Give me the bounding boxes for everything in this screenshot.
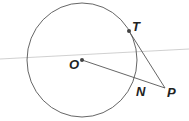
- label-p: P: [167, 85, 176, 100]
- point-o: [80, 58, 84, 62]
- segment-tp: [129, 31, 165, 88]
- segment-op: [82, 60, 165, 88]
- label-o: O: [69, 57, 79, 72]
- point-t: [127, 29, 131, 33]
- label-n: N: [136, 84, 146, 99]
- background-guide-line: [0, 49, 189, 59]
- geometry-diagram: O T N P: [0, 0, 189, 121]
- label-t: T: [132, 19, 141, 34]
